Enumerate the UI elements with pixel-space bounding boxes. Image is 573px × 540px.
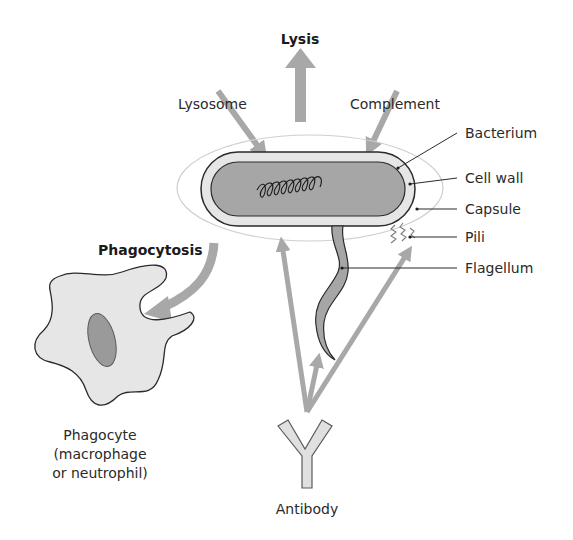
bacterium-cytoplasm: [211, 162, 405, 216]
phagocytosis-label: Phagocytosis: [98, 242, 203, 258]
complement-label: Complement: [350, 96, 440, 112]
antibody-icon: [278, 420, 332, 488]
phagocyte-label-line2: (macrophage: [53, 446, 146, 462]
cell-wall-label: Cell wall: [465, 170, 523, 186]
phagocyte-label-line1: Phagocyte: [63, 427, 136, 443]
capsule-label: Capsule: [465, 201, 521, 217]
flagellum-label: Flagellum: [465, 260, 533, 276]
flagellum: [316, 226, 349, 360]
antibody-label: Antibody: [276, 501, 338, 517]
bacterium-label: Bacterium: [465, 125, 537, 141]
antibody-arrow-capsule: [282, 244, 307, 412]
lysosome-label: Lysosome: [178, 96, 247, 112]
bacteria-immune-diagram: Lysis Lysosome Complement Antibody Bacte…: [0, 0, 573, 540]
lysis-arrow: [285, 48, 316, 122]
lysis-label: Lysis: [281, 31, 320, 47]
pili-label: Pili: [465, 229, 485, 245]
phagocyte-label-line3: or neutrophil): [52, 465, 148, 481]
